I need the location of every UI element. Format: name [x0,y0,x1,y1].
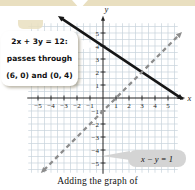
cropped-callout-fragment [18,20,43,29]
y-tick-label: −5 [92,160,100,168]
equation-label: x − y = 1 [128,150,186,167]
y-tick-label: 2 [96,69,100,77]
x-tick-label: 2 [127,102,131,110]
y-tick-label: 1 [96,82,100,90]
x-axis-label: x [187,93,192,103]
equation-callout: 2x + 3y = 12: passes through (6, 0) and … [1,31,78,86]
y-axis-arrowhead [101,16,105,21]
y-tick-label: −4 [92,147,100,155]
y-tick-label: 5 [96,30,100,38]
equation-label-text: x − y = 1 [141,154,173,164]
callout-text-line: passes through [1,50,78,67]
cropped-callout-band [0,0,195,6]
x-tick-label: 5 [166,102,170,110]
x-tick-label: −5 [34,102,42,110]
callout-equation-line: 2x + 3y = 12: [1,33,78,50]
y-tick-label: 3 [96,56,100,64]
x-tick-label: −4 [47,102,55,110]
x-tick-label: 3 [140,102,144,110]
x-axis-arrowhead [180,96,185,100]
y-tick-label: −1 [92,108,100,116]
x-tick-label: −2 [73,102,81,110]
x-tick-label: −3 [60,102,68,110]
textbook-graph-figure: −5−4−3−2−112345−5−4−3−2−112345xy 2x + 3y… [0,0,195,190]
x-tick-label: 1 [114,102,118,110]
x-tick-label: 4 [153,102,157,110]
y-tick-label: 4 [96,43,100,51]
figure-caption: Adding the graph of [0,176,195,186]
y-tick-label: −3 [92,134,100,142]
y-tick-label: −2 [92,121,100,129]
callout-points-line: (6, 0) and (0, 4) [1,67,78,84]
